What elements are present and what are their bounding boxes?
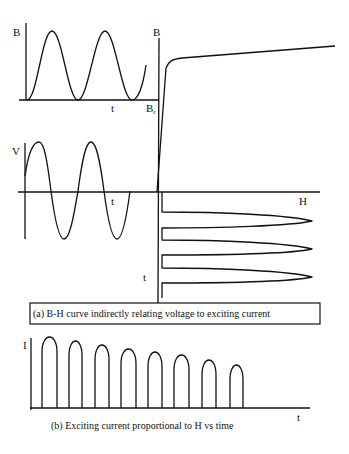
current-pulse-5 — [148, 352, 162, 408]
flux-vs-time-plot: B t Br — [13, 23, 159, 116]
caption-a-text: (a) B-H curve indirectly relating voltag… — [33, 308, 270, 320]
voltage-waveform — [25, 142, 130, 239]
remanence-label: Br — [146, 102, 156, 116]
magnetization-curve — [157, 46, 335, 192]
current-pulse-6 — [174, 355, 189, 408]
current-pulse-2 — [69, 341, 82, 408]
current-pulse-1 — [42, 337, 57, 408]
flux-y-label: B — [13, 26, 20, 38]
current-pulse-4 — [121, 349, 136, 408]
current-vs-time-plot: I t (b) Exciting current proportional to… — [23, 337, 310, 432]
voltage-x-label: t — [111, 195, 114, 207]
voltage-y-label: V — [12, 145, 20, 157]
remanence-label-sub: r — [153, 108, 156, 116]
current-pulse-7 — [202, 360, 216, 408]
current-pulse-3 — [95, 345, 109, 408]
b-axis-label: B — [153, 26, 160, 38]
caption-a: (a) B-H curve indirectly relating voltag… — [30, 303, 320, 324]
bh-curve-figure: B t Br B H V t t (a) B-H curve indirectl… — [0, 0, 349, 454]
h-time-axis-label: t — [143, 271, 146, 283]
flux-x-label: t — [111, 102, 114, 114]
voltage-vs-time-plot: V t — [12, 142, 130, 239]
remanence-label-main: B — [146, 102, 153, 114]
current-pulse-8 — [230, 365, 243, 408]
flux-waveform — [27, 31, 146, 100]
current-x-label: t — [297, 411, 300, 423]
h-vs-time-plot: t — [143, 192, 312, 298]
h-axis-label: H — [299, 195, 307, 207]
caption-b-text: (b) Exciting current proportional to H v… — [51, 420, 234, 432]
h-pulse-train — [162, 192, 312, 298]
current-y-label: I — [23, 339, 27, 351]
